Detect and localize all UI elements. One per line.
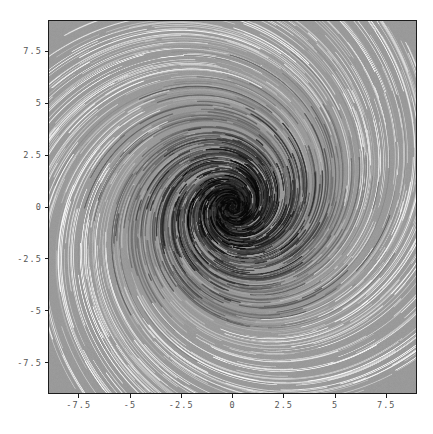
y-tick-label: -7.5 [17,359,42,368]
plot-axes [48,20,417,394]
y-tick-mark [45,51,49,52]
x-tick-mark [283,394,284,398]
y-tick-mark [45,310,49,311]
y-tick-label: 7.5 [23,47,42,56]
y-tick-mark [45,207,49,208]
y-tick-label: -5 [30,307,42,316]
x-tick-label: -7.5 [66,401,91,410]
x-tick-mark [232,394,233,398]
y-tick-label: 5 [36,99,42,108]
x-tick-label: 7.5 [377,401,396,410]
x-tick-label: -5 [124,401,136,410]
y-tick-mark [45,258,49,259]
x-tick-mark [386,394,387,398]
x-tick-mark [130,394,131,398]
x-tick-mark [181,394,182,398]
y-tick-mark [45,155,49,156]
y-tick-label: 0 [36,203,42,212]
x-tick-mark [78,394,79,398]
figure-container: 7.552.50-2.5-5-7.5 -7.5-5-2.502.557.5 [0,0,433,434]
x-tick-label: -2.5 [169,401,194,410]
y-tick-label: -2.5 [17,255,42,264]
streamplot-canvas [49,21,416,393]
y-tick-label: 2.5 [23,151,42,160]
x-tick-label: 2.5 [274,401,293,410]
x-tick-mark [335,394,336,398]
y-tick-mark [45,362,49,363]
x-tick-label: 5 [332,401,338,410]
x-tick-label: 0 [229,401,235,410]
y-tick-mark [45,103,49,104]
